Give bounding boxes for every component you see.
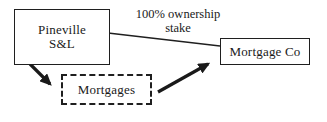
arrow-mortgages-to-mortgage-co: [158, 64, 208, 92]
node-mortgage-co: Mortgage Co: [220, 38, 310, 65]
node-mortgage-co-label: Mortgage Co: [229, 45, 300, 59]
node-pineville-sl: Pineville S&L: [14, 9, 110, 65]
arrow-pineville-to-mortgages: [30, 64, 50, 84]
ownership-edge-label: 100% ownership stake: [127, 7, 229, 35]
node-mortgages-label: Mortgages: [78, 83, 135, 97]
ownership-edge-label-line1: 100% ownership: [127, 7, 229, 21]
diagram-canvas: Pineville S&L Mortgage Co Mortgages 100%…: [0, 0, 327, 122]
node-pineville-sl-label-line2: S&L: [49, 37, 75, 51]
node-mortgages: Mortgages: [61, 74, 152, 105]
node-pineville-sl-label-line1: Pineville: [38, 23, 86, 37]
ownership-edge-label-line2: stake: [127, 21, 229, 35]
